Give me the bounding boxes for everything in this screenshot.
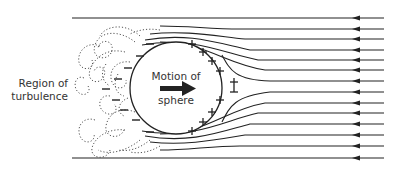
arrow-icon bbox=[352, 111, 360, 116]
arrow-icon bbox=[352, 144, 360, 149]
arrow-icon bbox=[352, 68, 360, 73]
streamline-12 bbox=[150, 135, 384, 143]
streamline-8 bbox=[222, 92, 384, 122]
streamline-2 bbox=[160, 26, 384, 29]
arrow-icon bbox=[352, 133, 360, 138]
region-label-line1: Region of bbox=[0, 77, 68, 90]
arrow-icon bbox=[352, 156, 360, 161]
arrow-icon bbox=[352, 122, 360, 127]
plus-icon bbox=[230, 78, 238, 92]
region-label-line2: turbulence bbox=[0, 90, 68, 103]
arrow-icon bbox=[352, 58, 360, 63]
arrow-icon bbox=[352, 101, 360, 106]
arrow-icon bbox=[352, 48, 360, 53]
sphere-label: sphere bbox=[136, 94, 216, 107]
motion-of-label: Motion of bbox=[136, 70, 216, 83]
flow-arrows bbox=[352, 16, 360, 161]
arrow-icon bbox=[352, 27, 360, 32]
streamline-13 bbox=[160, 146, 384, 150]
arrow-icon bbox=[352, 37, 360, 42]
sphere-flow-diagram: Region of turbulence Motion of sphere bbox=[0, 0, 405, 176]
arrow-icon bbox=[352, 90, 360, 95]
region-of-turbulence-label: Region of turbulence bbox=[0, 77, 68, 103]
arrow-icon bbox=[352, 16, 360, 21]
arrow-icon bbox=[352, 79, 360, 84]
